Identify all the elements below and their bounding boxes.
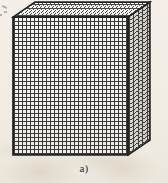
figure-canvas: a) (0, 0, 168, 183)
prism-front-face (13, 17, 128, 155)
figure-caption: a) (0, 162, 168, 174)
rectangular-prism-figure (0, 0, 168, 183)
prism-right-face (128, 2, 150, 155)
